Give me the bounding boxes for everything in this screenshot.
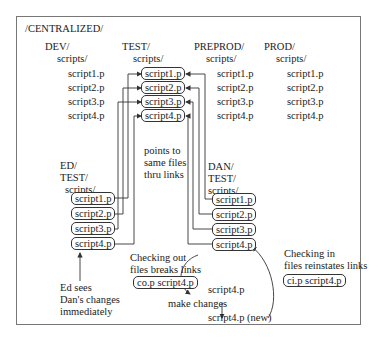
dan-file-box[interactable]: script4.p [212, 238, 256, 251]
preprod-file[interactable]: script3.p [217, 96, 253, 108]
env-test-folder: scripts/ [133, 53, 163, 65]
checkin-note-line: Checking in [284, 248, 335, 260]
env-preprod-label: PREPROD/ [194, 41, 244, 53]
links-note-line: same files [144, 157, 186, 169]
dan-file-box[interactable]: script3.p [212, 223, 256, 236]
test-file-box[interactable]: script4.p [141, 109, 185, 122]
dev-file[interactable]: script2.p [68, 82, 104, 94]
dev-file[interactable]: script4.p [68, 110, 104, 122]
checkout-note-line: Checking out [130, 252, 186, 264]
prod-file[interactable]: script1.p [287, 68, 323, 80]
local-file: script4.p [208, 284, 244, 296]
ed-file-box[interactable]: script2.p [71, 207, 115, 220]
root-label: /CENTRALIZED/ [25, 23, 103, 35]
prod-file[interactable]: script4.p [287, 110, 323, 122]
preprod-file[interactable]: script1.p [217, 68, 253, 80]
env-test-label: TEST/ [122, 41, 150, 53]
checkin-note-line: files reinstates links [284, 260, 367, 272]
dan-file-box[interactable]: script1.p [212, 193, 256, 206]
env-dev-folder: scripts/ [57, 53, 87, 65]
prod-file[interactable]: script2.p [287, 82, 323, 94]
dev-file[interactable]: script3.p [68, 96, 104, 108]
new-file: script4.p (new) [208, 312, 272, 324]
user-dan-label: DAN/ [208, 161, 234, 173]
test-file-box[interactable]: script1.p [141, 67, 185, 80]
preprod-file[interactable]: script4.p [217, 110, 253, 122]
ed-file-box[interactable]: script1.p [71, 192, 115, 205]
test-file-box[interactable]: script3.p [141, 95, 185, 108]
env-preprod-folder: scripts/ [206, 53, 236, 65]
env-prod-folder: scripts/ [276, 53, 306, 65]
env-prod-label: PROD/ [264, 41, 295, 53]
dan-file-box[interactable]: script2.p [212, 208, 256, 221]
checkin-command-box[interactable]: ci.p script4.p [283, 274, 346, 287]
env-dev-label: DEV/ [45, 41, 70, 53]
ed-file-box[interactable]: script3.p [71, 222, 115, 235]
checkout-command-box[interactable]: co.p script4.p [133, 276, 198, 289]
user-dan-env: TEST/ [208, 173, 236, 185]
checkout-note-line: files breaks links [130, 264, 201, 276]
links-note-line: points to [144, 145, 180, 157]
ed-note-line: Ed sees [60, 282, 92, 294]
ed-note-line: immediately [60, 306, 113, 318]
links-note-line: thru links [144, 169, 184, 181]
dev-file[interactable]: script1.p [68, 68, 104, 80]
ed-note-line: Dan's changes [60, 294, 120, 306]
user-ed-label: ED/ [60, 160, 77, 172]
make-changes-label: make changes [168, 298, 227, 310]
user-ed-env: TEST/ [60, 172, 88, 184]
ed-file-box[interactable]: script4.p [71, 237, 115, 250]
test-file-box[interactable]: script2.p [141, 81, 185, 94]
preprod-file[interactable]: script2.p [217, 82, 253, 94]
prod-file[interactable]: script3.p [287, 96, 323, 108]
